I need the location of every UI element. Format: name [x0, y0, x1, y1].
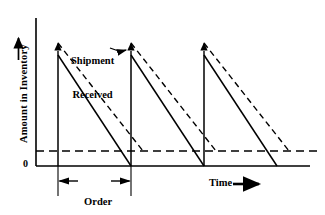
shipment-received-annotation: Shipment Received: [71, 32, 114, 123]
chart-canvas: [0, 0, 325, 215]
y-axis-title: Amount in Inventory: [18, 29, 29, 159]
order-interval-line-1: Order: [80, 196, 116, 207]
x-axis-title: Time: [209, 177, 232, 188]
y-axis-zero-tick-label: 0: [23, 159, 28, 170]
shipment-received-line-2: Received: [71, 89, 114, 100]
order-interval-annotation: Order Interval: [80, 173, 116, 215]
inventory-sawtooth-chart: Amount in Inventory 0 Shipment Received …: [0, 0, 325, 215]
shipment-received-line-1: Shipment: [71, 55, 114, 66]
cycle-3-depletion-dashed: [204, 43, 289, 151]
